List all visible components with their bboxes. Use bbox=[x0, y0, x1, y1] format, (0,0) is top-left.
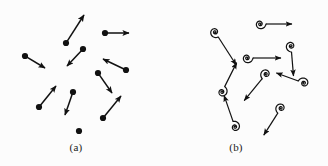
vector-origin-dot bbox=[63, 40, 69, 46]
figure-background bbox=[0, 0, 328, 166]
figure-root: (a) (b) bbox=[0, 0, 328, 166]
vector-origin-dot bbox=[123, 67, 129, 73]
vector-origin-dot bbox=[36, 104, 42, 110]
vector-10 bbox=[76, 128, 82, 134]
vector-origin-dot bbox=[76, 128, 82, 134]
figure-canvas bbox=[0, 0, 328, 166]
vector-origin-dot bbox=[95, 70, 101, 76]
vector-origin-dot bbox=[100, 115, 106, 121]
panel-b-caption: (b) bbox=[216, 141, 256, 153]
vector-origin-dot bbox=[70, 89, 76, 95]
panel-a-caption: (a) bbox=[56, 141, 96, 153]
vector-origin-dot bbox=[22, 53, 28, 59]
vector-origin-dot bbox=[80, 46, 86, 52]
vector-origin-dot bbox=[102, 30, 108, 36]
